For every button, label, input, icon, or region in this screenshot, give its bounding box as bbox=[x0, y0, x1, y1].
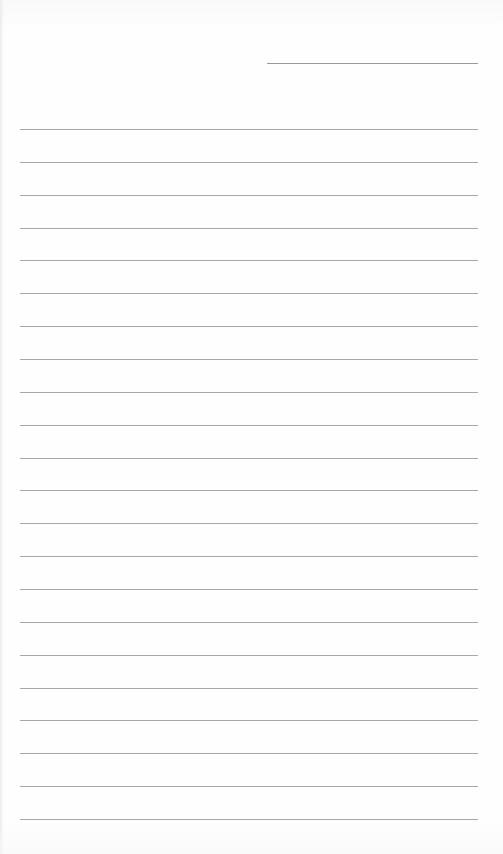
ruled-line bbox=[20, 326, 478, 327]
ruled-line bbox=[20, 129, 478, 130]
ruled-line bbox=[20, 359, 478, 360]
ruled-line bbox=[20, 556, 478, 557]
ruled-line bbox=[20, 819, 478, 820]
ruled-line bbox=[20, 293, 478, 294]
ruled-line bbox=[20, 622, 478, 623]
ruled-line bbox=[20, 786, 478, 787]
ruled-line bbox=[20, 720, 478, 721]
ruled-line bbox=[20, 753, 478, 754]
ruled-line bbox=[20, 458, 478, 459]
header-name-line bbox=[267, 63, 478, 64]
ruled-line bbox=[20, 195, 478, 196]
page-edge-shadow bbox=[0, 0, 4, 854]
ruled-line bbox=[20, 260, 478, 261]
ruled-line bbox=[20, 490, 478, 491]
top-bleed-through bbox=[0, 0, 503, 30]
ruled-line bbox=[20, 688, 478, 689]
ruled-line bbox=[20, 589, 478, 590]
ruled-line bbox=[20, 162, 478, 163]
ruled-line bbox=[20, 392, 478, 393]
ruled-line bbox=[20, 425, 478, 426]
ruled-line bbox=[20, 228, 478, 229]
ruled-line bbox=[20, 655, 478, 656]
ruled-line bbox=[20, 523, 478, 524]
lined-paper-page bbox=[0, 0, 503, 854]
bottom-bleed-through bbox=[0, 824, 503, 854]
